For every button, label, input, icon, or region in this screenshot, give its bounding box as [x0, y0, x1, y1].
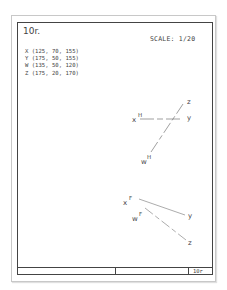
title-block-divider	[188, 267, 189, 275]
line-xf-yf	[139, 199, 185, 215]
label-w-f-sup: F	[139, 211, 142, 217]
label-x-h-sup: H	[138, 112, 142, 118]
line-wh-zh	[151, 104, 183, 152]
label-y-f: y	[188, 212, 192, 220]
projection-drawing	[0, 0, 227, 290]
label-x-f-sup: F	[129, 195, 132, 201]
label-x-f: x	[123, 199, 127, 207]
label-x-h: x	[132, 116, 136, 124]
title-block-divider	[115, 267, 116, 275]
label-y-h: y	[187, 114, 191, 122]
title-block-sheet-number: 10r	[193, 268, 203, 274]
label-z-h: z	[187, 98, 191, 106]
label-w-h-sup: H	[147, 154, 151, 160]
label-z-f: z	[188, 239, 192, 247]
line-wf-zf	[145, 208, 186, 240]
label-w-f: w	[132, 215, 138, 223]
label-w-h: w	[141, 158, 147, 166]
